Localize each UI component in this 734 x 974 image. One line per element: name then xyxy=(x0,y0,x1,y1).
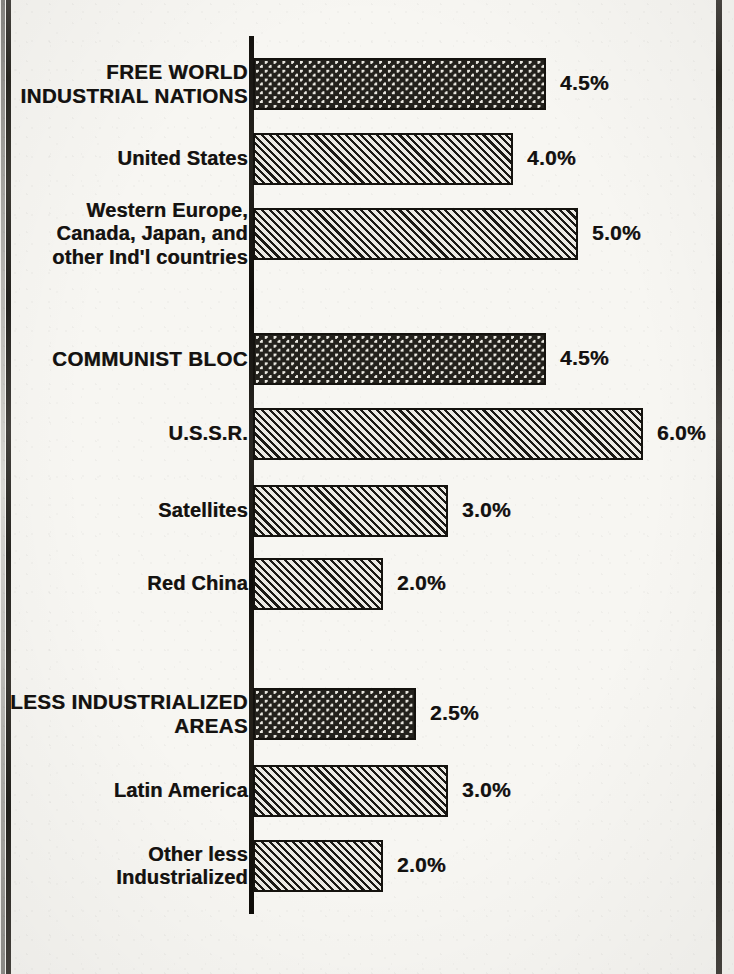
bar-united-states xyxy=(253,133,513,185)
bar-row-other-less-industrialized: Other less Industrialized2.0% xyxy=(0,840,734,892)
bar-row-western-europe-canada-japan: Western Europe, Canada, Japan, and other… xyxy=(0,208,734,260)
bar-value-free-world-industrial-nations: 4.5% xyxy=(560,71,609,95)
bar-other-less-industrialized xyxy=(253,840,383,892)
bar-label-free-world-industrial-nations: FREE WORLD INDUSTRIAL NATIONS xyxy=(21,60,248,108)
bar-red-china xyxy=(253,558,383,610)
chart-page: FREE WORLD INDUSTRIAL NATIONS4.5%United … xyxy=(0,0,734,974)
bar-row-free-world-industrial-nations: FREE WORLD INDUSTRIAL NATIONS4.5% xyxy=(0,58,734,110)
bar-less-industrialized-areas xyxy=(253,688,416,740)
bar-communist-bloc xyxy=(253,333,546,385)
bar-value-less-industrialized-areas: 2.5% xyxy=(430,701,479,725)
bar-value-latin-america: 3.0% xyxy=(462,778,511,802)
bar-label-united-states: United States xyxy=(118,147,248,170)
bar-value-red-china: 2.0% xyxy=(397,571,446,595)
bar-value-western-europe-canada-japan: 5.0% xyxy=(592,221,641,245)
bar-value-other-less-industrialized: 2.0% xyxy=(397,853,446,877)
bar-western-europe-canada-japan xyxy=(253,208,578,260)
bar-label-western-europe-canada-japan: Western Europe, Canada, Japan, and other… xyxy=(52,199,248,269)
bar-row-ussr: U.S.S.R.6.0% xyxy=(0,408,734,460)
bar-label-other-less-industrialized: Other less Industrialized xyxy=(116,843,248,889)
bar-label-satellites: Satellites xyxy=(158,499,248,522)
bar-latin-america xyxy=(253,765,448,817)
bar-row-communist-bloc: COMMUNIST BLOC4.5% xyxy=(0,333,734,385)
bar-value-satellites: 3.0% xyxy=(462,498,511,522)
bar-row-latin-america: Latin America3.0% xyxy=(0,765,734,817)
bar-row-united-states: United States4.0% xyxy=(0,133,734,185)
bar-row-satellites: Satellites3.0% xyxy=(0,485,734,537)
bar-row-red-china: Red China2.0% xyxy=(0,558,734,610)
bar-label-red-china: Red China xyxy=(147,572,248,595)
bar-satellites xyxy=(253,485,448,537)
bar-value-ussr: 6.0% xyxy=(657,421,706,445)
bar-label-ussr: U.S.S.R. xyxy=(169,422,248,445)
bar-label-communist-bloc: COMMUNIST BLOC xyxy=(52,347,248,371)
bar-value-communist-bloc: 4.5% xyxy=(560,346,609,370)
bar-value-united-states: 4.0% xyxy=(527,146,576,170)
horizontal-bar-chart: FREE WORLD INDUSTRIAL NATIONS4.5%United … xyxy=(0,0,734,974)
bar-label-latin-america: Latin America xyxy=(114,779,248,802)
bar-ussr xyxy=(253,408,643,460)
bar-label-less-industrialized-areas: LESS INDUSTRIALIZED AREAS xyxy=(10,690,248,738)
bar-free-world-industrial-nations xyxy=(253,58,546,110)
bar-row-less-industrialized-areas: LESS INDUSTRIALIZED AREAS2.5% xyxy=(0,688,734,740)
